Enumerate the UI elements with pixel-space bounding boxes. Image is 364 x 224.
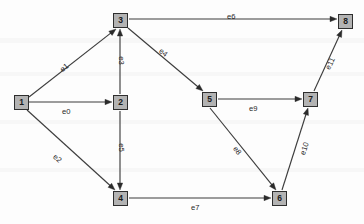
edge-e9 [218,96,302,101]
graph-node-8[interactable]: 8 [338,14,353,29]
graph-node-label: 3 [118,16,123,25]
graph-node-3[interactable]: 3 [113,13,128,28]
graph-node-5[interactable]: 5 [202,92,217,107]
edge-e2 [27,110,115,190]
diagram-canvas: 12345678 e0e1e2e3e4e5e6e7e8e9e10e11 [0,0,364,224]
graph-node-4[interactable]: 4 [113,191,128,206]
graph-node-7[interactable]: 7 [303,92,318,107]
edge-label-e5: e5 [117,143,126,152]
edge-e7 [129,195,271,200]
graph-node-2[interactable]: 2 [113,95,128,110]
graph-node-label: 8 [343,17,348,26]
graph-node-label: 2 [118,98,123,107]
arrow-head-icon [295,96,302,101]
graph-node-label: 4 [118,194,123,203]
graph-node-label: 1 [19,98,24,107]
graph-edges-layer [0,0,364,224]
arrow-head-icon [303,108,308,115]
edge-e1 [29,29,116,97]
graph-node-label: 6 [277,194,282,203]
edge-label-e3: e3 [117,56,126,65]
edge-line [210,108,273,186]
edge-line [29,32,112,97]
graph-node-label: 5 [207,95,212,104]
edge-e4 [128,28,203,91]
arrow-head-icon [264,195,271,200]
edge-label-e7: e7 [191,203,200,212]
edge-label-e0: e0 [62,107,71,116]
arrow-head-icon [330,16,337,21]
graph-node-label: 7 [308,95,313,104]
edge-line [27,110,111,186]
arrow-head-icon [105,99,112,104]
graph-node-1[interactable]: 1 [14,95,29,110]
edge-e8 [210,108,276,190]
edge-label-e6: e6 [227,12,236,21]
arrow-head-icon [117,29,122,36]
graph-node-6[interactable]: 6 [272,191,287,206]
arrow-head-icon [117,183,122,190]
arrow-head-icon [337,30,342,37]
edge-e0 [29,99,112,104]
edge-label-e9: e9 [249,104,258,113]
